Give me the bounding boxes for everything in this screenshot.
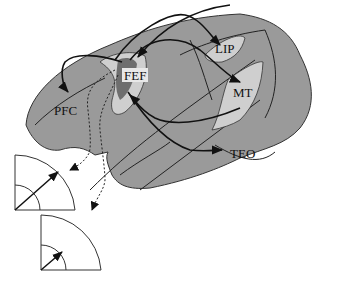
label-pfc: PFC	[54, 103, 77, 118]
label-mt: MT	[233, 85, 253, 100]
label-teo: TEO	[230, 146, 255, 161]
visual-field-2	[41, 215, 101, 270]
label-lip: LIP	[215, 41, 235, 56]
visual-field-1	[15, 155, 75, 210]
brain-diagram: PFC FEF LIP MT TEO	[0, 0, 340, 284]
label-fef: FEF	[124, 68, 146, 83]
